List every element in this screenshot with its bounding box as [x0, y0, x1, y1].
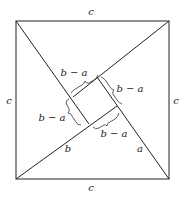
label-right-c: c: [173, 95, 179, 106]
label-inner-bottom-right: b − a: [100, 128, 127, 139]
label-leg-b: b: [65, 143, 71, 154]
pythagorean-square-diagram: c c c c b − a b − a b − a b − a b a: [0, 0, 185, 198]
label-bottom-c: c: [88, 182, 94, 193]
label-inner-bottom-left: b − a: [38, 112, 65, 123]
label-inner-top-left: b − a: [60, 67, 87, 78]
label-top-c: c: [88, 6, 94, 17]
outer-square: [16, 21, 169, 179]
label-left-c: c: [6, 95, 12, 106]
label-leg-a: a: [137, 143, 143, 154]
label-inner-top-right: b − a: [116, 83, 143, 94]
